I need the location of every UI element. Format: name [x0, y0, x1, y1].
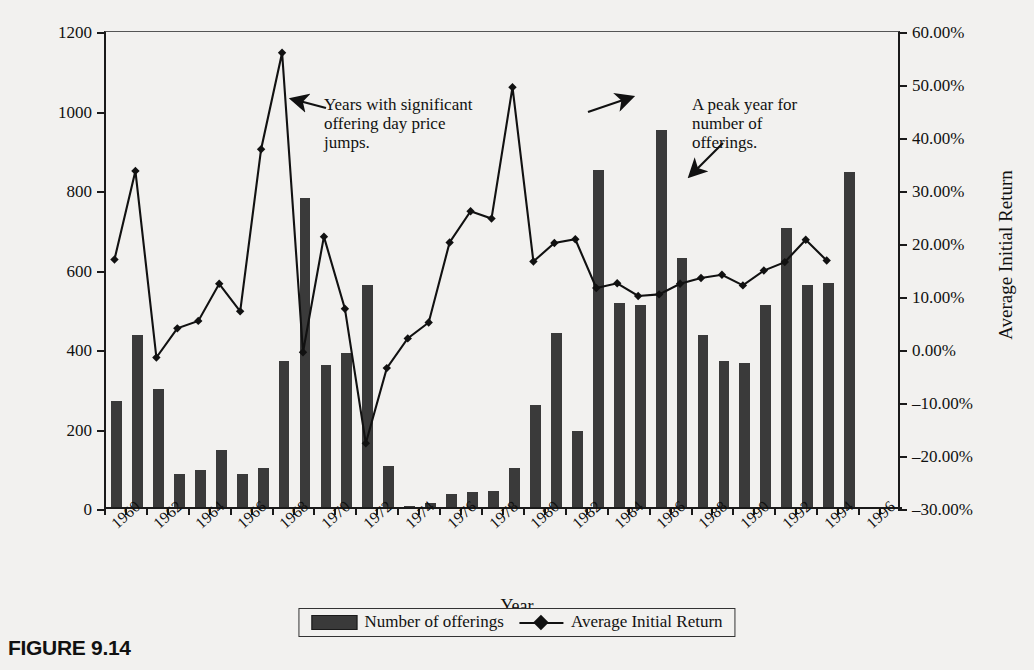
bar-swatch-icon	[311, 615, 357, 630]
x-axis-tick	[188, 507, 190, 515]
x-axis-tick	[313, 507, 315, 515]
bar	[593, 170, 604, 508]
bar	[279, 361, 290, 508]
x-axis-tick	[774, 507, 776, 515]
legend-label-return: Average Initial Return	[571, 612, 723, 632]
bar	[446, 494, 457, 508]
bar	[760, 305, 771, 508]
bar	[300, 198, 311, 508]
y-axis-right-tick	[898, 456, 907, 458]
figure-caption: FIGURE 9.14	[8, 636, 131, 660]
y-axis-right-tick-label: 50.00%	[912, 76, 964, 96]
x-axis-tick	[439, 507, 441, 515]
y-axis-right-tick	[898, 509, 907, 511]
bar	[321, 365, 332, 508]
bar	[823, 283, 834, 508]
x-axis-tick	[649, 507, 651, 515]
bar	[362, 285, 373, 508]
x-axis-tick	[565, 507, 567, 515]
y-axis-left-tick	[97, 350, 106, 352]
x-axis-tick	[607, 507, 609, 515]
figure-root: 020040060080010001200–30.00%–20.00%–10.0…	[0, 0, 1034, 670]
y-axis-right-tick-label: 40.00%	[912, 129, 964, 149]
chart-legend: Number of offerings Average Initial Retu…	[298, 608, 735, 637]
legend-label-offerings: Number of offerings	[364, 612, 503, 632]
y-axis-left-tick	[97, 191, 106, 193]
bar	[739, 363, 750, 508]
y-axis-right-tick-label: 30.00%	[912, 182, 964, 202]
bar	[132, 335, 143, 508]
bar	[635, 305, 646, 508]
y-axis-right-tick-label: 20.00%	[912, 235, 964, 255]
y-axis-right-tick-label: 10.00%	[912, 288, 964, 308]
bar	[195, 470, 206, 508]
y-axis-left-tick-label: 0	[84, 500, 93, 520]
bar	[698, 335, 709, 508]
bar	[677, 258, 688, 508]
bar	[530, 405, 541, 508]
bar	[488, 491, 499, 508]
x-axis-tick	[355, 507, 357, 515]
x-axis-tick	[104, 507, 106, 515]
y-axis-left-tick-label: 1000	[58, 103, 92, 123]
annotation-peak-year: A peak year for number of offerings.	[692, 95, 797, 152]
bar	[656, 130, 667, 508]
y-axis-left-tick	[97, 32, 106, 34]
x-axis-tick	[523, 507, 525, 515]
y-axis-right-tick	[898, 403, 907, 405]
y-axis-right-title: Average Initial Return	[995, 170, 1017, 340]
bar	[614, 303, 625, 508]
bar	[844, 172, 855, 508]
x-axis-tick	[272, 507, 274, 515]
x-axis-tick	[816, 507, 818, 515]
bar	[719, 361, 730, 508]
y-axis-right-tick-label: –10.00%	[912, 394, 973, 414]
y-axis-left-tick-label: 1200	[58, 23, 92, 43]
line-diamond-icon	[520, 616, 564, 629]
bar	[572, 431, 583, 509]
y-axis-left-tick-label: 600	[67, 262, 93, 282]
x-axis-tick	[397, 507, 399, 515]
y-axis-right-tick	[898, 138, 907, 140]
x-axis-tick	[230, 507, 232, 515]
y-axis-left-tick-label: 800	[67, 182, 93, 202]
y-axis-right-tick-label: 60.00%	[912, 23, 964, 43]
x-axis-tick	[146, 507, 148, 515]
y-axis-right-tick	[898, 85, 907, 87]
y-axis-right-tick	[898, 244, 907, 246]
y-axis-right-tick	[898, 350, 907, 352]
y-axis-left-tick	[97, 271, 106, 273]
y-axis-left-tick-label: 400	[67, 341, 93, 361]
x-axis-tick	[858, 507, 860, 515]
y-axis-left-tick	[97, 112, 106, 114]
bar	[341, 353, 352, 508]
y-axis-right-tick-label: –30.00%	[912, 500, 973, 520]
y-axis-right-tick	[898, 32, 907, 34]
bar	[111, 401, 122, 508]
bar	[802, 285, 813, 508]
y-axis-left-tick	[97, 430, 106, 432]
legend-item-offerings: Number of offerings	[311, 612, 503, 632]
bar	[153, 389, 164, 508]
y-axis-left-tick-label: 200	[67, 421, 93, 441]
y-axis-right-tick	[898, 297, 907, 299]
x-axis-tick	[481, 507, 483, 515]
bar	[781, 228, 792, 508]
annotation-price-jumps: Years with significant offering day pric…	[324, 95, 472, 152]
x-axis-tick	[691, 507, 693, 515]
legend-item-return: Average Initial Return	[520, 612, 723, 632]
bar	[551, 333, 562, 508]
x-axis-tick	[732, 507, 734, 515]
y-axis-right-tick-label: 0.00%	[912, 341, 956, 361]
y-axis-right-tick-label: –20.00%	[912, 447, 973, 467]
y-axis-right-tick	[898, 191, 907, 193]
bar	[237, 474, 248, 508]
